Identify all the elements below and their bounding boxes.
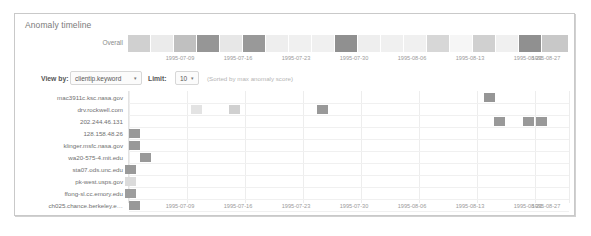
overall-timeline-cell[interactable]: [519, 35, 541, 52]
gridline: [129, 115, 569, 116]
overall-timeline-cell[interactable]: [128, 35, 150, 52]
heatmap-cell[interactable]: [129, 141, 140, 150]
axis-tick-label: 1995-08-13: [456, 203, 485, 209]
heatmap-row-label: 128.158.48.26: [83, 130, 123, 137]
heatmap-row-label: ffong-sl.cc.emory.edu: [64, 190, 123, 197]
axis-tick-label: 1995-08-06: [398, 203, 427, 209]
overall-timeline-cell[interactable]: [542, 35, 568, 52]
overall-timeline-cell[interactable]: [450, 35, 472, 52]
axis-tick-label: 1995-07-09: [166, 203, 195, 209]
overall-timeline-cell[interactable]: [197, 35, 219, 52]
heatmap-row-label: wa20-575-4.mit.edu: [68, 154, 123, 161]
gridline: [129, 151, 569, 152]
heatmap-row-label: klinger.msfc.nasa.gov: [64, 142, 124, 149]
overall-timeline-cell[interactable]: [312, 35, 334, 52]
heatmap-row-label: 202.244.46.131: [80, 118, 123, 125]
heatmap-cell[interactable]: [229, 105, 240, 114]
axis-tick-label: 1995-08-06: [398, 55, 427, 61]
overall-timeline-cell[interactable]: [404, 35, 426, 52]
heatmap-cell[interactable]: [494, 117, 505, 126]
gridline: [569, 91, 570, 203]
heatmap-plot[interactable]: [128, 91, 569, 203]
axis-tick-label: 1995-07-30: [340, 55, 369, 61]
axis-tick-label: 1995-07-09: [166, 55, 195, 61]
axis-tick-label: 1995-07-30: [340, 203, 369, 209]
heatmap-row-label: pk-west.usps.gov: [75, 178, 123, 185]
heatmap-cell[interactable]: [191, 105, 202, 114]
timeline-axis-top: 1995-07-091995-07-161995-07-231995-07-30…: [128, 55, 568, 65]
view-by-value: clientip.keyword: [75, 75, 121, 82]
axis-tick-label: 1995-08-27: [532, 55, 561, 61]
page-title: Anomaly timeline: [25, 20, 91, 30]
axis-tick-label: 1995-07-16: [224, 203, 253, 209]
overall-label: Overall: [77, 39, 123, 46]
overall-timeline-cell[interactable]: [243, 35, 265, 52]
overall-timeline-cell[interactable]: [266, 35, 288, 52]
overall-timeline-cell[interactable]: [289, 35, 311, 52]
gridline: [129, 175, 569, 176]
gridline: [129, 163, 569, 164]
axis-tick-label: 1995-08-27: [532, 203, 561, 209]
heatmap: mac3911c.ksc.nasa.govdrv.rockwell.com202…: [15, 91, 574, 203]
gridline: [129, 139, 569, 140]
gridline: [129, 199, 569, 200]
axis-tick-label: 1995-07-16: [224, 55, 253, 61]
heatmap-cell[interactable]: [484, 93, 495, 102]
overall-timeline-strip[interactable]: [128, 34, 568, 53]
chevron-down-icon: ▾: [191, 76, 194, 81]
overall-timeline-row: Overall: [15, 34, 574, 54]
overall-timeline-cell[interactable]: [496, 35, 518, 52]
heatmap-cell[interactable]: [125, 189, 136, 198]
controls-bar: View by: clientip.keyword ▾ Limit: 10 ▾ …: [15, 70, 574, 88]
gridline: [129, 127, 569, 128]
heatmap-row-label: ch025.chance.berkeley.e…: [48, 202, 123, 209]
heatmap-row-label: drv.rockwell.com: [77, 106, 123, 113]
axis-tick-label: 1995-07-23: [282, 55, 311, 61]
heatmap-cell[interactable]: [125, 165, 136, 174]
overall-timeline-cell[interactable]: [151, 35, 173, 52]
heatmap-row-label: mac3911c.ksc.nasa.gov: [57, 94, 123, 101]
anomaly-timeline-panel: Anomaly timeline Overall 1995-07-091995-…: [14, 13, 575, 216]
heatmap-cell[interactable]: [129, 129, 140, 138]
overall-timeline-cell[interactable]: [335, 35, 357, 52]
limit-value: 10: [180, 75, 187, 82]
axis-tick-label: 1995-07-23: [282, 203, 311, 209]
heatmap-cell[interactable]: [140, 153, 151, 162]
limit-select[interactable]: 10 ▾: [175, 71, 199, 85]
overall-timeline-cell[interactable]: [358, 35, 380, 52]
gridline: [129, 103, 569, 104]
overall-timeline-cell[interactable]: [174, 35, 196, 52]
heatmap-cell[interactable]: [523, 117, 534, 126]
timeline-axis-bottom: 1995-07-091995-07-161995-07-231995-07-30…: [128, 203, 568, 213]
overall-timeline-cell[interactable]: [427, 35, 449, 52]
heatmap-cell[interactable]: [125, 177, 136, 186]
sort-hint: (Sorted by max anomaly score): [207, 75, 293, 82]
gridline: [129, 187, 569, 188]
chevron-down-icon: ▾: [134, 76, 137, 81]
limit-label: Limit:: [148, 75, 167, 82]
heatmap-row-label: sta07.ods.unc.edu: [72, 166, 123, 173]
heatmap-row-labels: mac3911c.ksc.nasa.govdrv.rockwell.com202…: [15, 91, 128, 203]
heatmap-cell[interactable]: [317, 105, 328, 114]
axis-tick-label: 1995-08-13: [456, 55, 485, 61]
view-by-label: View by:: [41, 75, 68, 82]
overall-timeline-cell[interactable]: [220, 35, 242, 52]
heatmap-cell[interactable]: [536, 117, 547, 126]
overall-timeline-cell[interactable]: [473, 35, 495, 52]
view-by-select[interactable]: clientip.keyword ▾: [70, 71, 142, 85]
overall-timeline-cell[interactable]: [381, 35, 403, 52]
